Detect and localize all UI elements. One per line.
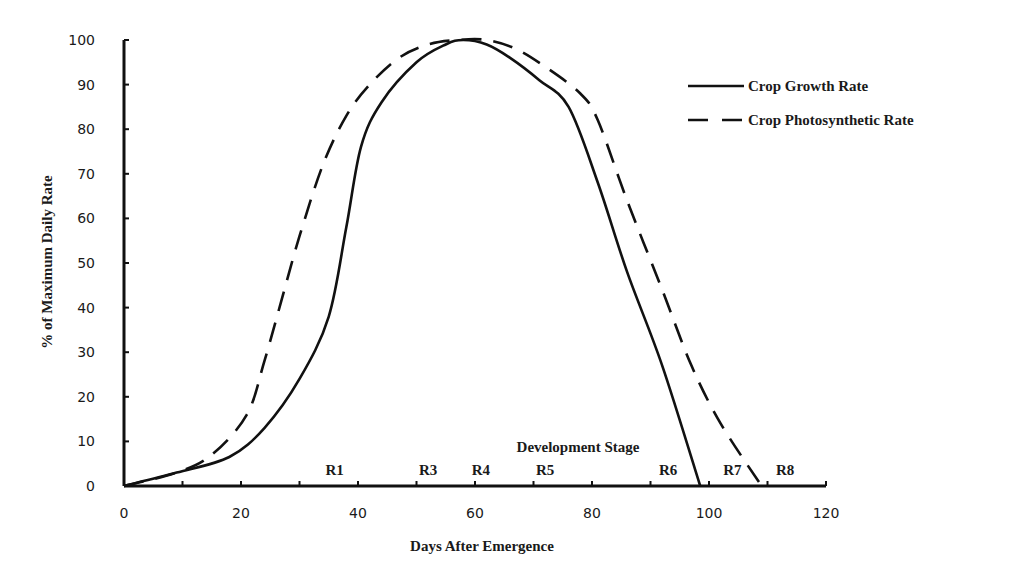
y-tick-label: 70 bbox=[77, 166, 95, 182]
legend-item-crop-growth-rate: Crop Growth Rate bbox=[688, 78, 869, 94]
x-tick-label: 80 bbox=[583, 505, 601, 521]
x-tick-label: 0 bbox=[120, 505, 129, 521]
x-tick-label: 40 bbox=[349, 505, 367, 521]
y-tick-label: 30 bbox=[77, 344, 95, 360]
stage-label-r6: R6 bbox=[659, 462, 678, 478]
stage-label-r8: R8 bbox=[776, 462, 794, 478]
stage-label-r1: R1 bbox=[325, 462, 343, 478]
x-tick-label: 120 bbox=[813, 505, 840, 521]
x-tick-label: 100 bbox=[696, 505, 723, 521]
y-tick-label: 10 bbox=[77, 433, 95, 449]
x-axis-label: Days After Emergence bbox=[410, 538, 554, 554]
y-axis-label: % of Maximum Daily Rate bbox=[39, 175, 55, 349]
y-tick-label: 40 bbox=[77, 300, 95, 316]
legend-item-crop-photosynthetic-rate: Crop Photosynthetic Rate bbox=[688, 112, 914, 128]
stage-label-r7: R7 bbox=[723, 462, 742, 478]
y-tick-label: 50 bbox=[77, 255, 95, 271]
x-axis-label-group: Days After Emergence bbox=[410, 538, 554, 554]
y-axis-ticks: 0102030405060708090100 bbox=[68, 32, 129, 494]
y-tick-label: 0 bbox=[86, 478, 95, 494]
series-line-crop-growth-rate bbox=[124, 40, 700, 486]
y-tick-label: 60 bbox=[77, 210, 95, 226]
y-tick-label: 20 bbox=[77, 389, 95, 405]
stage-label-r4: R4 bbox=[472, 462, 491, 478]
axes bbox=[124, 40, 826, 486]
x-tick-label: 60 bbox=[466, 505, 484, 521]
y-axis-label-group: % of Maximum Daily Rate bbox=[39, 175, 55, 349]
legend-label: Crop Photosynthetic Rate bbox=[748, 112, 914, 128]
development-stage-title: Development Stage bbox=[517, 439, 640, 455]
series-layer bbox=[124, 39, 762, 486]
y-tick-label: 90 bbox=[77, 77, 95, 93]
legend: Crop Growth Rate Crop Photosynthetic Rat… bbox=[688, 78, 914, 128]
y-tick-label: 80 bbox=[77, 121, 95, 137]
chart-canvas: % of Maximum Daily Rate Days After Emerg… bbox=[0, 0, 1028, 582]
development-stage-annotations: Development Stage R1R3R4R5R6R7R8 bbox=[325, 439, 794, 478]
stage-label-r5: R5 bbox=[536, 462, 554, 478]
series-line-crop-photosynthetic-rate bbox=[124, 39, 762, 486]
x-tick-label: 20 bbox=[232, 505, 250, 521]
stage-label-r3: R3 bbox=[419, 462, 437, 478]
y-tick-label: 100 bbox=[68, 32, 95, 48]
legend-label: Crop Growth Rate bbox=[748, 78, 869, 94]
